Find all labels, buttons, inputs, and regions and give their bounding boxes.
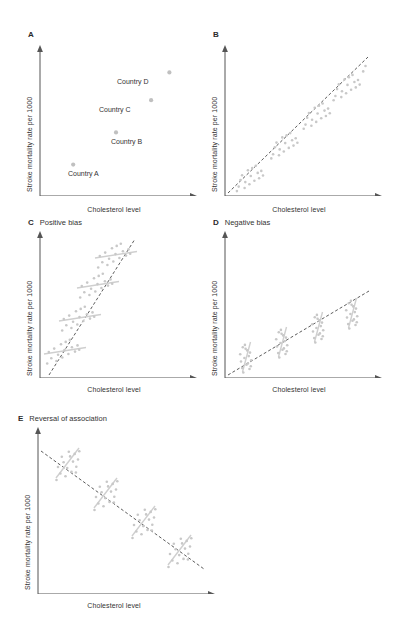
panel-e-cluster-b — [93, 478, 118, 511]
panel-e-axes — [35, 427, 215, 594]
panel-b-y-axis-label: Stroke mortality rate per 1000 — [211, 97, 218, 192]
panel-d-x-axis-label: Cholesterol level — [239, 386, 359, 393]
panel-c-trend-line — [49, 239, 135, 375]
panel-a-point-label-country-a: Country A — [68, 170, 99, 177]
panel-d-svg — [219, 230, 384, 378]
panel-c: CPositive bias Stroke mortality rate per… — [24, 218, 199, 398]
panel-a-letter: A — [28, 30, 34, 39]
panel-b-svg — [219, 44, 384, 196]
panel-c-cluster-a — [44, 339, 86, 365]
panel-e-cluster-a — [55, 448, 80, 481]
panel-d-y-axis-label: Stroke mortality rate per 1000 — [211, 281, 218, 376]
panel-c-cluster-b — [59, 306, 101, 332]
panel-c-y-axis-label: Stroke mortality rate per 1000 — [26, 281, 33, 376]
panel-a: A Stroke mortality rate per 1000 Countr — [24, 30, 199, 220]
panel-d-cluster-d — [345, 298, 359, 330]
panel-c-cluster-c — [77, 273, 119, 299]
panel-b-points — [236, 65, 367, 193]
panel-c-svg — [34, 230, 199, 378]
panel-e-cluster-d — [167, 535, 192, 568]
panel-a-x-axis-label: Cholesterol level — [54, 206, 174, 213]
panel-e: EReversal of association Stroke mortalit… — [14, 414, 214, 614]
panel-a-head: A — [28, 30, 40, 39]
panel-c-letter: C — [28, 218, 34, 227]
panel-e-x-axis-label: Cholesterol level — [54, 602, 174, 609]
panel-c-x-axis-label: Cholesterol level — [54, 386, 174, 393]
panel-e-cluster-c — [131, 506, 156, 539]
panel-e-y-axis-label: Stroke mortality rate per 1000 — [24, 495, 31, 590]
panel-a-axes — [37, 45, 197, 196]
panel-b-plot — [219, 44, 384, 196]
panel-e-head: EReversal of association — [18, 414, 107, 423]
panel-b-trend-line — [228, 57, 368, 193]
panel-a-point-label-country-c: Country C — [99, 106, 131, 113]
panel-a-y-axis-label: Stroke mortality rate per 1000 — [26, 97, 33, 192]
panel-d-plot — [219, 230, 384, 378]
panel-d-title: Negative bias — [225, 218, 270, 227]
panel-b: B Stroke mortality rate per 1000 — [209, 30, 384, 220]
panel-b-letter: B — [213, 30, 219, 39]
panel-d-head: DNegative bias — [213, 218, 270, 227]
panel-d-cluster-b — [275, 327, 289, 359]
panel-c-head: CPositive bias — [28, 218, 82, 227]
panel-a-point-label-country-d: Country D — [117, 78, 149, 85]
panel-d-cluster-c — [311, 312, 325, 344]
panel-b-axes — [222, 45, 382, 196]
panel-e-svg — [32, 426, 217, 594]
panel-d-cluster-a — [239, 342, 253, 374]
panel-b-x-axis-label: Cholesterol level — [239, 206, 359, 213]
panel-e-plot — [32, 426, 217, 594]
panel-a-svg — [34, 44, 199, 196]
panel-a-point-label-country-b: Country B — [111, 138, 142, 145]
panel-c-title: Positive bias — [40, 218, 82, 227]
panel-e-trend-line — [41, 451, 204, 569]
panel-c-plot — [34, 230, 199, 378]
panel-d-letter: D — [213, 218, 219, 227]
panel-e-title: Reversal of association — [29, 414, 107, 423]
panel-a-plot — [34, 44, 199, 196]
panel-d: DNegative bias Stroke mortality rate per… — [209, 218, 384, 398]
panel-b-head: B — [213, 30, 225, 39]
figure-root: A Stroke mortality rate per 1000 Countr — [0, 0, 398, 627]
panel-e-letter: E — [18, 414, 23, 423]
